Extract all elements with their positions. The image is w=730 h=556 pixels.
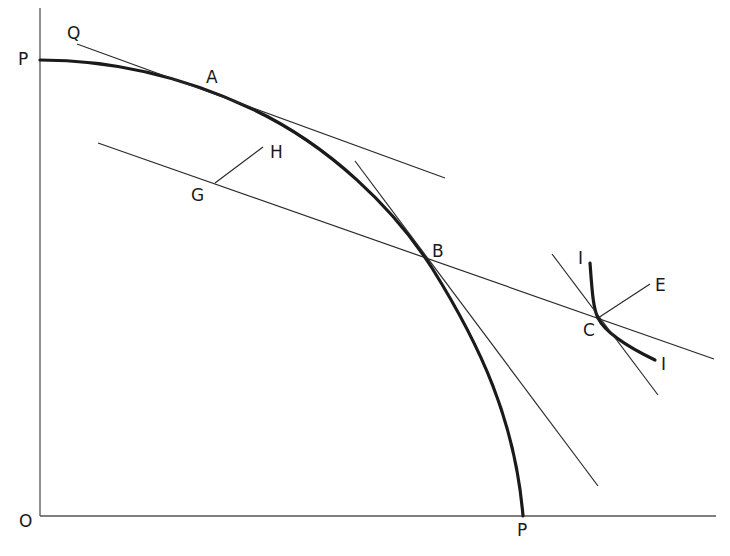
label-ppf-bottom: P	[517, 520, 527, 540]
segment-CE	[598, 284, 650, 318]
label-A: A	[206, 67, 218, 87]
label-Q: Q	[67, 23, 80, 43]
tangent-at-B	[355, 161, 598, 486]
label-B: B	[432, 241, 444, 261]
label-G: G	[191, 185, 204, 205]
tangent-at-C	[552, 254, 658, 395]
price-line-GBC	[98, 143, 714, 359]
label-C: C	[583, 320, 595, 340]
diagram-canvas: P Q A H G B I E C I O P	[0, 0, 730, 556]
label-ppf-top: P	[18, 49, 28, 69]
label-I-bottom: I	[661, 354, 666, 374]
segment-GH	[215, 147, 263, 183]
tangent-at-A	[77, 44, 445, 178]
label-origin: O	[19, 511, 32, 531]
label-H: H	[270, 142, 283, 162]
indifference-curve-I	[590, 263, 655, 360]
label-E: E	[655, 275, 666, 295]
label-I-top: I	[578, 248, 583, 268]
